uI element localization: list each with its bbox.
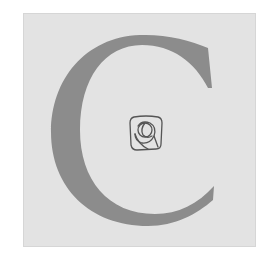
rose-icon [128, 114, 164, 152]
